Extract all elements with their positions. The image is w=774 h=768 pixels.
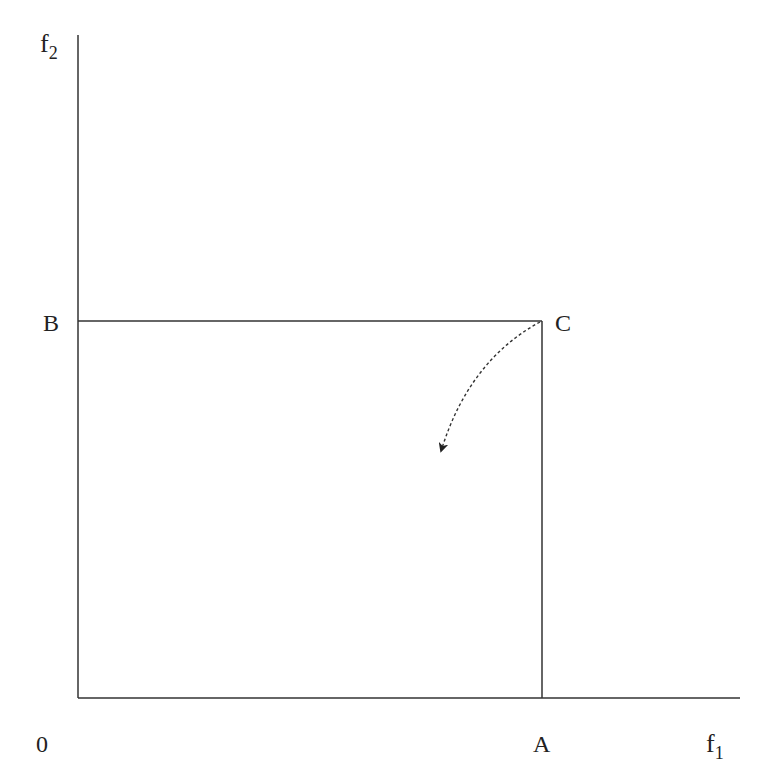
- point-a-label: A: [533, 731, 551, 757]
- diagram-canvas: f2 f1 0 A B C: [0, 0, 774, 768]
- point-c-label: C: [555, 310, 571, 336]
- x-axis-label: f1: [706, 729, 724, 763]
- dashed-arrow: [442, 322, 540, 448]
- point-b-label: B: [43, 310, 59, 336]
- origin-label: 0: [36, 731, 48, 757]
- y-axis-label: f2: [40, 29, 58, 63]
